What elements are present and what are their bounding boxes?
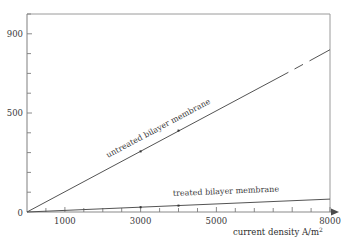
y-tick-label-500: 500 (7, 108, 23, 118)
series-untreated-label: untreated bilayer membrane (105, 97, 212, 160)
svg-text:current density A/m2: current density A/m2 (233, 226, 323, 237)
series-treated-label: treated bilayer membrane (173, 185, 280, 198)
x-tick-label-8000: 8000 (319, 216, 341, 226)
y-tick-label-900: 900 (7, 29, 23, 39)
series-treated-annotation: treated bilayer membrane (173, 185, 280, 198)
line-chart-canvas: 900 500 0 1000 3000 5000 8000 current de… (0, 0, 353, 239)
x-tick-label-3000: 3000 (130, 216, 152, 226)
y-axis-ticks (27, 14, 32, 192)
x-axis-arrow-icon (331, 209, 339, 216)
x-tick-label-1000: 1000 (54, 216, 76, 226)
series-untreated-annotation: untreated bilayer membrane (105, 97, 212, 160)
x-axis-title-text: current density A/m (233, 227, 319, 237)
x-axis-title-exponent: 2 (319, 226, 323, 233)
x-axis-title: current density A/m2 (233, 226, 323, 237)
chart-figure: 900 500 0 1000 3000 5000 8000 current de… (0, 0, 353, 239)
x-tick-label-5000: 5000 (206, 216, 228, 226)
y-tick-label-0: 0 (18, 208, 23, 218)
